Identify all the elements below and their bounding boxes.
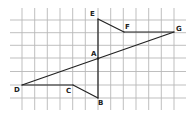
point-label-f: F	[125, 24, 130, 31]
point-a-marker	[97, 57, 99, 59]
point-label-a: A	[91, 51, 96, 58]
diagram-canvas	[0, 0, 193, 117]
point-label-g: G	[176, 26, 182, 33]
geometry-diagram: A B C D E F G	[0, 0, 193, 117]
point-label-c: C	[66, 88, 71, 95]
point-label-d: D	[14, 87, 20, 94]
figure-segments	[22, 19, 174, 98]
point-label-e: E	[90, 11, 95, 18]
point-label-b: B	[98, 100, 103, 107]
